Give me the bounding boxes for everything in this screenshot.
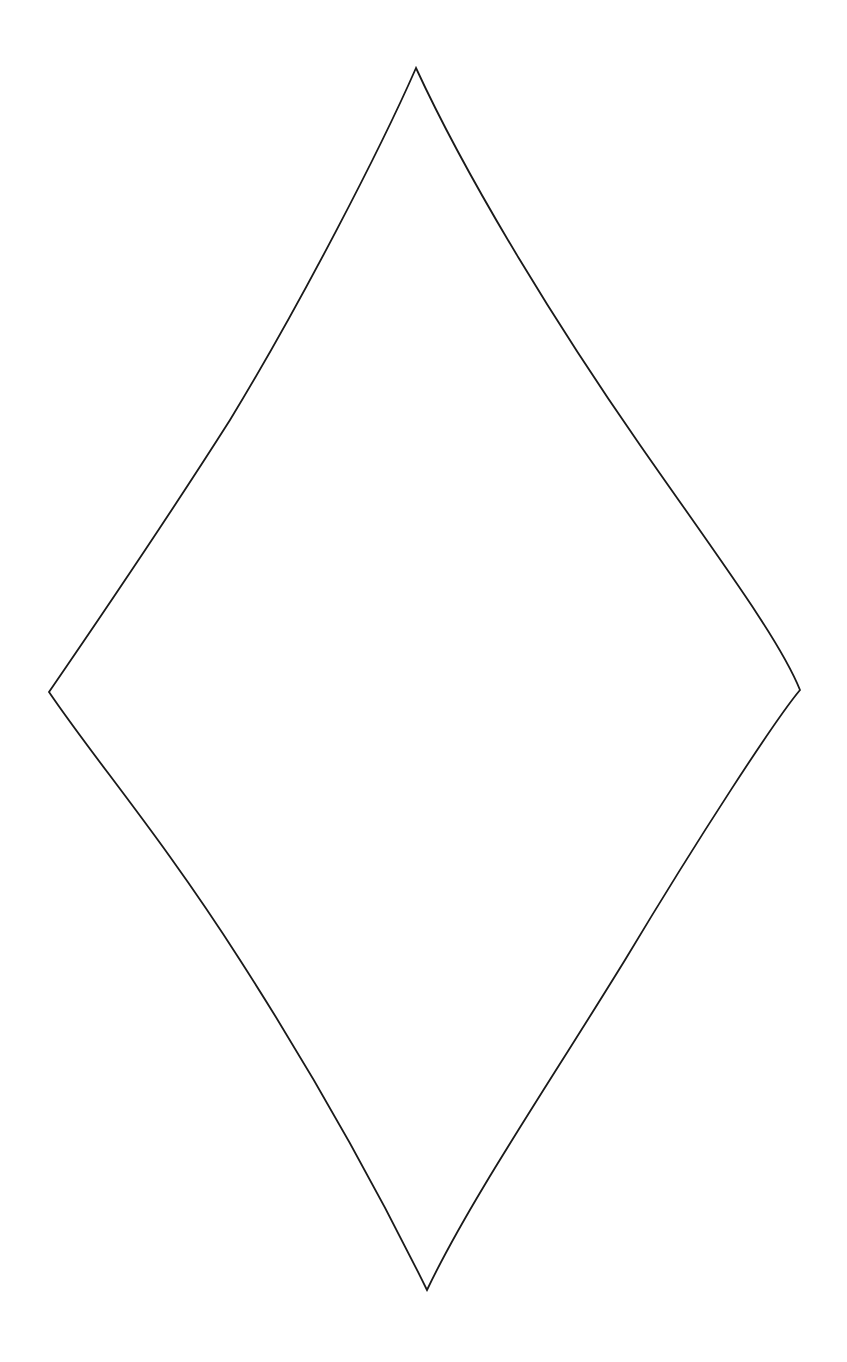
diamond-shape-svg xyxy=(0,0,847,1362)
diagram-canvas xyxy=(0,0,847,1362)
concave-diamond-outline xyxy=(49,68,800,1290)
